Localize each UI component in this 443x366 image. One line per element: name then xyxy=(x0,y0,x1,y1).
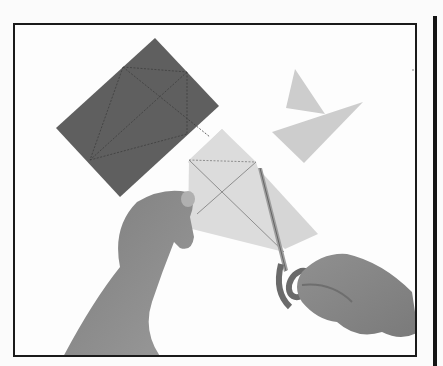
speck xyxy=(412,69,414,71)
photo-frame xyxy=(13,23,417,357)
left-hand xyxy=(62,191,195,357)
right-hand xyxy=(297,254,417,337)
cut-paper-pieces xyxy=(272,69,363,163)
photo-illustration xyxy=(15,25,417,357)
page-margin-rule xyxy=(433,16,437,366)
photo-page xyxy=(0,0,443,366)
